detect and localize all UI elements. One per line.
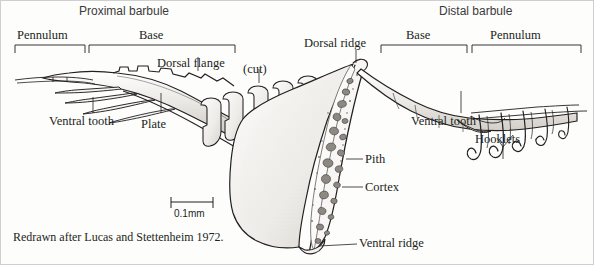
label-hooklets: Hooklets	[475, 133, 520, 146]
label-ventral-ridge: Ventral ridge	[359, 237, 424, 250]
figure-caption: Redrawn after Lucas and Stettenheim 1972…	[13, 231, 224, 243]
bracket-left-base	[89, 45, 235, 53]
title-proximal-barbule: Proximal barbule	[79, 5, 169, 17]
label-plate: Plate	[141, 118, 166, 131]
label-dorsal-ridge: Dorsal ridge	[304, 37, 366, 50]
label-dorsal-flange: Dorsal flange	[157, 57, 225, 70]
proximal-barbule-group	[15, 66, 235, 151]
bracket-lines	[15, 45, 581, 53]
label-cortex: Cortex	[365, 181, 399, 194]
bracket-right-pennulum	[472, 45, 581, 53]
label-ventral-tooth-right: Ventral tooth	[411, 115, 476, 128]
figure-panel: Proximal barbule Distal barbule Pennulum…	[0, 0, 594, 265]
ventral-tooth-1	[55, 87, 121, 93]
label-cut: (cut)	[243, 63, 267, 76]
leader-ventral-ridge	[319, 244, 357, 246]
bracket-right-base	[381, 45, 467, 53]
label-pith: Pith	[365, 153, 385, 166]
bracket-label-right-base: Base	[406, 29, 430, 42]
bracket-label-left-pennulum: Pennulum	[17, 29, 68, 42]
bracket-label-right-pennulum: Pennulum	[490, 29, 541, 42]
bracket-label-left-base: Base	[139, 29, 163, 42]
ventral-tooth-2	[65, 93, 137, 103]
scale-bar-label: 0.1mm	[174, 209, 205, 219]
scale-bar	[171, 197, 213, 208]
bracket-left-pennulum	[15, 45, 85, 53]
title-distal-barbule: Distal barbule	[439, 5, 512, 17]
label-ventral-tooth-left: Ventral tooth	[49, 115, 114, 128]
